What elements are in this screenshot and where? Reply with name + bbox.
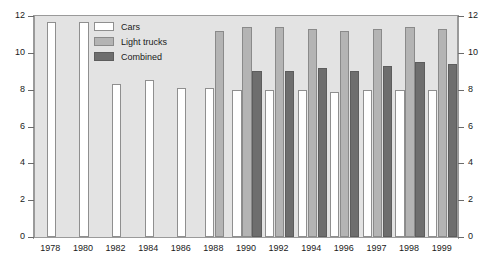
y-tick-label-left-0: 0 [20,232,25,241]
y-tick-left-2 [28,200,34,201]
y-tick-right-0 [458,237,464,238]
x-axis-label-1978: 1978 [40,243,60,253]
y-tick-right-6 [458,127,464,128]
y-tick-label-left-4: 4 [20,158,25,167]
y-tick-right-10 [458,53,464,54]
bar-cars-1978 [47,22,56,237]
y-tick-label-right-8: 8 [468,85,473,94]
bar-cars-1982 [112,84,121,237]
y-tick-label-left-2: 2 [20,195,25,204]
bar-cars-1986 [177,88,186,237]
bar-cars-1992 [265,90,274,237]
y-tick-label-right-12: 12 [468,11,478,20]
x-axis-label-1986: 1986 [171,243,191,253]
y-tick-right-8 [458,90,464,91]
y-tick-left-4 [28,163,34,164]
bar-light-trucks-1998 [405,27,414,237]
x-axis-label-1980: 1980 [73,243,93,253]
y-tick-label-right-0: 0 [468,232,473,241]
bar-light-trucks-1992 [275,27,284,237]
bar-combined-1996 [350,71,359,237]
legend-label: Cars [121,22,140,32]
bar-cars-1994 [298,90,307,237]
bar-light-trucks-1994 [308,29,317,237]
bar-cars-1984 [145,80,154,237]
y-tick-label-right-6: 6 [468,122,473,131]
y-tick-label-left-12: 12 [15,11,25,20]
x-axis-label-1997: 1997 [366,243,386,253]
y-tick-left-12 [28,16,34,17]
y-tick-left-8 [28,90,34,91]
x-axis-label-1998: 1998 [399,243,419,253]
y-tick-label-right-10: 10 [468,48,478,57]
y-tick-right-12 [458,16,464,17]
legend-swatch-icon-light-trucks [94,37,114,46]
bar-cars-1980 [79,22,88,237]
x-axis-label-1992: 1992 [269,243,289,253]
bar-combined-1999 [448,64,457,237]
bar-cars-1998 [395,90,404,237]
y-tick-label-left-10: 10 [15,48,25,57]
bar-light-trucks-1988 [215,31,224,237]
x-axis-label-1988: 1988 [203,243,223,253]
legend-swatch-icon-combined [94,52,114,61]
bar-light-trucks-1990 [242,27,251,237]
legend-label: Combined [121,52,162,62]
legend-swatch-icon-cars [94,22,114,31]
x-axis-label-1990: 1990 [236,243,256,253]
x-axis-label-1999: 1999 [432,243,452,253]
y-tick-label-left-6: 6 [20,122,25,131]
y-tick-label-right-4: 4 [468,158,473,167]
bar-cars-1990 [232,90,241,237]
legend-item-light-trucks: Light trucks [94,34,198,49]
legend-item-cars: Cars [94,19,198,34]
legend-label: Light trucks [121,37,167,47]
y-tick-right-4 [458,163,464,164]
bar-light-trucks-1997 [373,29,382,237]
legend-item-combined: Combined [94,49,198,64]
chart-figure: 024681012 024681012 19781980198219841986… [0,0,492,269]
bar-combined-1992 [285,71,294,237]
bar-light-trucks-1999 [438,29,447,237]
y-tick-left-0 [28,237,34,238]
bar-combined-1990 [252,71,261,237]
bar-cars-1999 [428,90,437,237]
bar-combined-1998 [415,62,424,237]
chart-legend: CarsLight trucksCombined [94,19,198,64]
y-tick-left-6 [28,127,34,128]
x-axis-label-1984: 1984 [138,243,158,253]
x-axis-label-1994: 1994 [301,243,321,253]
bar-light-trucks-1996 [340,31,349,237]
bar-combined-1997 [383,66,392,237]
bar-cars-1997 [363,90,372,237]
y-tick-left-10 [28,53,34,54]
y-tick-right-2 [458,200,464,201]
bar-cars-1996 [330,92,339,237]
y-tick-label-right-2: 2 [468,195,473,204]
y-tick-label-left-8: 8 [20,85,25,94]
x-axis-label-1982: 1982 [106,243,126,253]
bar-combined-1994 [318,68,327,237]
x-axis-labels: 1978198019821984198619881990199219941996… [34,243,458,255]
bar-cars-1988 [205,88,214,237]
x-axis-label-1996: 1996 [334,243,354,253]
